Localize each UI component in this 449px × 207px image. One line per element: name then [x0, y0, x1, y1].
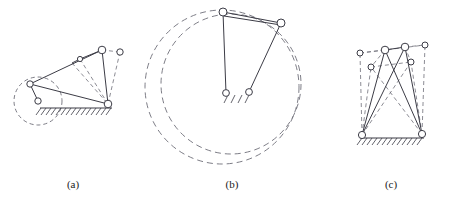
mechanism-figure	[0, 0, 449, 207]
ground-pivot-left-b	[223, 90, 230, 97]
alt-pin-inner-left-c	[368, 64, 374, 70]
crank-pin-right-b	[277, 19, 285, 27]
coupler-rocker-pin-alt-a	[117, 49, 123, 55]
rocker-right-pin-c	[401, 43, 409, 51]
rocker-left-pin-c	[381, 46, 389, 54]
ground-pivot-left-c	[358, 131, 365, 138]
caption-b: (b)	[212, 178, 252, 190]
crank-pin-a	[27, 81, 33, 87]
caption-c: (c)	[371, 178, 411, 190]
rocker-ground-pivot-a	[104, 100, 112, 108]
ground-pivot-right-c	[418, 130, 425, 137]
crank-ground-pivot-a	[35, 98, 41, 104]
crank-pin-left-b	[219, 8, 227, 16]
coupler-rocker-pin-a	[98, 46, 106, 54]
alt-pin-far-left-c	[357, 50, 363, 56]
caption-a: (a)	[53, 178, 93, 190]
alt-pin-inner-right-c	[408, 59, 414, 65]
alt-pin-far-right-c	[422, 42, 428, 48]
coupler-mid-marker-a	[77, 56, 82, 61]
figure-background	[0, 0, 449, 207]
ground-pivot-right-b	[246, 89, 253, 96]
